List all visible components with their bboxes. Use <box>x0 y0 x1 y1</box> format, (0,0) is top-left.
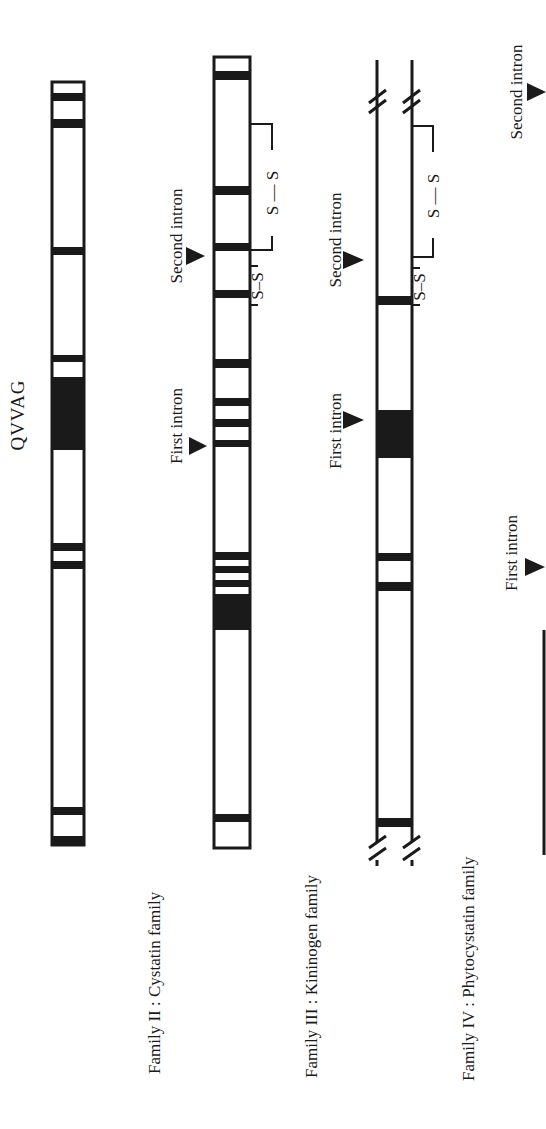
family-3-label: Family III : Kininogen family <box>302 874 321 1078</box>
family-4-first-intron-arrow-icon <box>525 558 545 576</box>
family-3-bands <box>377 296 412 827</box>
family-2-second-intron-arrow-icon <box>186 247 205 265</box>
family-3-second-intron-label: Second intron <box>326 192 345 287</box>
family-1-bar <box>52 82 84 845</box>
family-2-ss-long: S — S <box>263 171 282 215</box>
qvvag-label: QVVAG <box>7 379 28 450</box>
family-3-first-intron-arrow-icon <box>343 411 364 429</box>
family-4-first-intron-label: First intron <box>502 514 521 591</box>
family-4-label: Family IV : Phytocystatin family <box>459 856 478 1081</box>
family-2-first-intron-arrow-icon <box>189 437 207 455</box>
family-2-label: Family II : Cystatin family <box>145 891 164 1074</box>
family-2-first-intron-label: First intron <box>167 387 186 464</box>
qvvag-block <box>52 377 84 450</box>
diagram-canvas: QVVAG S — S S–S Second intron First intr… <box>0 0 546 1129</box>
family-2-bar <box>214 57 250 848</box>
family-2-ss-short: S–S <box>248 272 267 299</box>
family-4-second-intron-arrow-icon <box>527 83 546 101</box>
family-4-second-intron-label: Second intron <box>507 44 526 139</box>
family-3-ss-short: S–S <box>410 273 429 300</box>
family-3-ss-long: S — S <box>424 174 443 218</box>
family-3-second-intron-arrow-icon <box>343 251 364 269</box>
family-3-first-intron-label: First intron <box>326 392 345 469</box>
family-2-second-intron-label: Second intron <box>167 188 186 283</box>
